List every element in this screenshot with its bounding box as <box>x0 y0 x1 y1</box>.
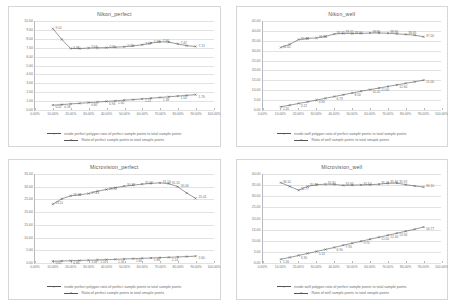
data-point-label: 1.10 <box>100 260 106 264</box>
x-axis-tick-label: 70.00% <box>155 265 166 269</box>
legend-item-well-ratio[interactable]: × Ratio of well sample points to total s… <box>294 291 389 295</box>
data-point-label: 35.10 <box>363 182 371 186</box>
chart-nikon-perfect[interactable]: Nikon_perfect 0.001.002.003.004.005.006.… <box>8 6 221 147</box>
legend-marker-line-icon: × <box>47 285 61 288</box>
data-point-label: 11.00 <box>381 88 389 92</box>
data-point-label: 6.88 <box>73 46 79 50</box>
data-point-label: 7.42 <box>181 41 187 45</box>
legend-item-inside-well[interactable]: × inside well polygon ratio of perfect s… <box>277 285 406 289</box>
x-axis-tick-label: 30.00% <box>311 112 322 116</box>
x-axis-tick-label: 90.00% <box>418 112 429 116</box>
x-axis-tick-label: 100.00% <box>207 265 220 269</box>
plot-axes: 0.005.0010.0015.0020.0025.0030.0035.000.… <box>34 174 214 264</box>
data-point-label: 36.10 <box>283 180 291 184</box>
data-point-label: 7.02 <box>127 44 133 48</box>
legend-item-inside-well[interactable]: × inside well polygon ratio of perfect s… <box>277 132 406 136</box>
chart-title: Microvision_perfect <box>9 164 220 170</box>
data-point-label: 1.50 <box>283 107 289 111</box>
data-point-label: 38.65 <box>346 30 354 34</box>
y-axis-tick-label: 30.00 <box>252 194 261 198</box>
data-point-label: 7.05 <box>109 45 115 49</box>
plot-axes: 0.001.002.003.004.005.006.007.008.009.00… <box>34 21 214 111</box>
y-axis-tick-label: 20.00 <box>252 217 261 221</box>
x-axis-tick-label: 60.00% <box>364 112 375 116</box>
data-point-label: 31.50 <box>163 180 171 184</box>
y-axis-tick-label: 4.00 <box>26 72 33 76</box>
plot-axes: 0.005.0010.0015.0020.0025.0030.0035.0040… <box>262 174 442 264</box>
y-axis-tick-label: 25.00 <box>24 197 33 201</box>
data-point-label: 13.30 <box>399 233 407 237</box>
x-axis-tick-label: 40.00% <box>329 112 340 116</box>
x-axis-tick-label: 10.00% <box>47 112 58 116</box>
legend-item-inside-perfect[interactable]: × inside perfect polygon ratio of perfec… <box>47 285 181 289</box>
x-axis-tick-label: 80.00% <box>173 112 184 116</box>
x-axis-tick-label: 20.00% <box>293 112 304 116</box>
data-point-label: 1.60 <box>136 259 142 263</box>
chart-microvision-perfect[interactable]: Microvision_perfect 0.005.0010.0015.0020… <box>8 159 221 300</box>
x-axis-tick-label: 100.00% <box>435 112 448 116</box>
data-point-label: 12.40 <box>390 235 398 239</box>
legend-label: Ratio of perfect sample points to total … <box>81 138 164 142</box>
data-point-marker <box>52 203 54 205</box>
legend-item-well-ratio[interactable]: × Ratio of well sample points to total s… <box>294 138 389 142</box>
data-point-label: 7.04 <box>91 45 97 49</box>
data-point-label: 16.77 <box>426 227 434 231</box>
x-axis-tick-label: 50.00% <box>119 265 130 269</box>
x-axis-tick-label: 20.00% <box>293 265 304 269</box>
chart-microvision-well[interactable]: Microvision_well 0.005.0010.0015.0020.00… <box>236 159 449 300</box>
y-axis-tick-label: 40.00 <box>252 172 261 176</box>
plot-area-nikon-perfect: 0.001.002.003.004.005.006.007.008.009.00… <box>34 21 214 111</box>
data-point-label: 1.00 <box>118 101 124 105</box>
data-point-label: 27.32 <box>91 191 99 195</box>
data-point-label: 31.20 <box>172 181 180 185</box>
chart-title: Nikon_perfect <box>9 11 220 17</box>
data-point-label: 25.41 <box>199 195 207 199</box>
data-point-label: 7.66 <box>163 39 169 43</box>
y-axis-tick-label: 10.00 <box>252 239 261 243</box>
y-axis-tick-label: 5.00 <box>26 64 33 68</box>
data-point-label: 11.50 <box>381 237 389 241</box>
y-axis-tick-label: 15.00 <box>252 228 261 232</box>
x-axis-tick-label: 30.00% <box>83 112 94 116</box>
y-axis-tick-label: 25.00 <box>252 59 261 63</box>
data-point-label: 35.42 <box>381 181 389 185</box>
chart-legend: × inside perfect polygon ratio of perfec… <box>9 132 220 143</box>
legend-label: Ratio of well sample points to total sma… <box>311 291 389 295</box>
series-canvas <box>263 174 441 263</box>
x-axis-tick-label: 90.00% <box>418 265 429 269</box>
legend-item-inside-perfect[interactable]: × inside perfect polygon ratio of perfec… <box>47 132 181 136</box>
spreadsheet-chart-sheet: Nikon_perfect 0.001.002.003.004.005.006.… <box>0 0 455 306</box>
y-axis-tick-label: 8.00 <box>26 37 33 41</box>
x-axis-tick-label: 70.00% <box>382 112 393 116</box>
data-point-label: 34.94 <box>346 182 354 186</box>
y-axis-tick-label: 15.00 <box>24 223 33 227</box>
y-axis-tick-label: 10.00 <box>24 236 33 240</box>
data-point-label: 38.42 <box>337 31 345 35</box>
x-axis-tick-label: 0.00% <box>258 112 267 116</box>
data-point-label: 0.58 <box>64 105 70 109</box>
y-axis-tick-label: 45.00 <box>252 19 261 23</box>
x-axis-tick <box>442 108 443 110</box>
legend-item-perfect-ratio[interactable]: × Ratio of perfect sample points to tota… <box>64 138 164 142</box>
x-axis-tick-label: 90.00% <box>191 112 202 116</box>
x-axis-tick-label: 80.00% <box>400 112 411 116</box>
data-point-label: 32.77 <box>301 187 309 191</box>
legend-label: inside perfect polygon ratio of perfect … <box>64 285 181 289</box>
plot-area-microvision-perfect: 0.005.0010.0015.0020.0025.0030.0035.000.… <box>34 174 214 264</box>
x-axis-tick-label: 60.00% <box>137 265 148 269</box>
data-point-label: 30.22 <box>127 183 135 187</box>
x-axis-tick-label: 80.00% <box>400 265 411 269</box>
data-point-label: 37.00 <box>426 34 434 38</box>
data-point-label: 26.41 <box>73 193 81 197</box>
chart-cell-nikon-well: Nikon_well 0.005.0010.0015.0020.0025.003… <box>228 0 455 153</box>
legend-marker-line-icon: × <box>294 139 308 142</box>
y-axis-tick-label: 1.00 <box>26 99 33 103</box>
data-point-label: 0.80 <box>73 261 79 265</box>
y-axis-tick-label: 9.00 <box>26 28 33 32</box>
chart-nikon-well[interactable]: Nikon_well 0.005.0010.0015.0020.0025.003… <box>236 6 449 147</box>
legend-label: inside perfect polygon ratio of perfect … <box>64 132 181 136</box>
legend-item-perfect-ratio[interactable]: × Ratio of perfect sample points to tota… <box>64 291 164 295</box>
y-axis-tick-label: 15.00 <box>252 78 261 82</box>
data-point-label: 38.86 <box>372 30 380 34</box>
data-point-label: 1.38 <box>163 98 169 102</box>
